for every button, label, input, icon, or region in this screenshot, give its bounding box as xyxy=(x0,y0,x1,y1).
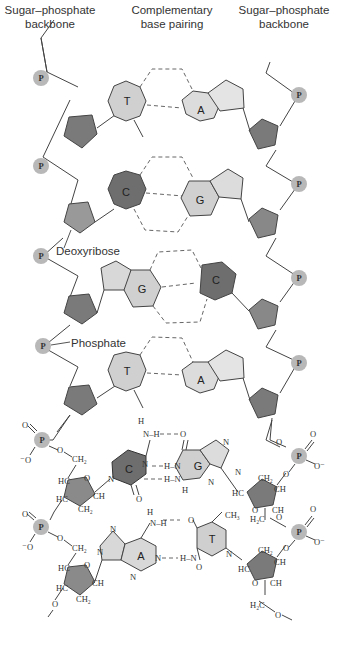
base-letter-A: A xyxy=(197,374,205,386)
chem-label: CH₂ xyxy=(78,504,93,514)
chem-label: H–N xyxy=(164,474,181,484)
base-letter-C: C xyxy=(122,186,130,198)
chem-label: CH₂ xyxy=(258,545,273,555)
chem-label: H–N xyxy=(180,553,197,563)
chem-label: CH xyxy=(93,491,105,501)
chem-label: HC xyxy=(56,494,68,504)
left-sugars xyxy=(64,115,97,415)
base-letter-G: G xyxy=(194,460,203,472)
phosphate-symbol: P xyxy=(38,522,43,532)
phosphate-symbol: P xyxy=(296,451,301,461)
chem-label: O xyxy=(310,504,316,514)
deoxyribose-icon xyxy=(249,388,278,418)
chem-label: O xyxy=(22,509,28,519)
chem-label: H xyxy=(138,416,144,426)
chem-label: O xyxy=(84,473,90,483)
chem-label: N xyxy=(223,437,229,447)
chem-label: CH xyxy=(270,578,282,588)
chem-label: HC xyxy=(238,564,250,574)
chem-label: H–N xyxy=(164,461,181,471)
base-letter-A: A xyxy=(137,550,145,562)
deoxyribose-icon xyxy=(64,202,95,233)
base-letter-C: C xyxy=(212,274,220,286)
chem-label: H₂C xyxy=(250,514,265,524)
chem-label: O xyxy=(180,429,186,439)
base-pair-2: C G xyxy=(95,157,249,232)
phosphate-symbol: P xyxy=(39,435,44,445)
chem-label: N xyxy=(97,547,103,557)
chem-label: O xyxy=(57,445,63,455)
base-letter-G: G xyxy=(138,283,147,295)
phosphate-symbol: P xyxy=(296,179,301,189)
chem-label: O xyxy=(22,420,28,430)
chem-label: O xyxy=(276,437,282,447)
base-letter-T: T xyxy=(124,95,131,107)
base-letter-A: A xyxy=(197,104,205,116)
base-letter-T: T xyxy=(209,533,216,545)
deoxyribose-icon xyxy=(64,115,97,148)
phosphate-symbol: P xyxy=(38,251,43,261)
phosphate-symbol: P xyxy=(40,341,45,351)
chem-label: O xyxy=(136,494,142,504)
chem-label: CH xyxy=(92,578,104,588)
chem-label: N xyxy=(235,467,241,477)
chem-label: O xyxy=(188,515,194,525)
chem-label: O xyxy=(52,599,58,609)
chem-label: CH₂ xyxy=(72,543,87,553)
chem-label: HC xyxy=(232,488,244,498)
chem-label: H₂C xyxy=(250,600,265,610)
right-sugars xyxy=(249,119,278,418)
chem-label: CH xyxy=(274,557,286,567)
base-letter-C: C xyxy=(125,463,133,475)
chem-label: O xyxy=(252,578,258,588)
deoxyribose-icon xyxy=(249,119,278,149)
phosphate-symbol: P xyxy=(296,273,301,283)
chem-label: ⁻O xyxy=(22,542,33,552)
chem-label: CH₃ xyxy=(225,510,240,520)
chem-label: HC xyxy=(56,583,68,593)
phosphate-symbol: P xyxy=(38,73,43,83)
chem-label: N–H xyxy=(150,518,167,528)
chem-label: O xyxy=(57,533,63,543)
deoxyribose-icon xyxy=(249,299,278,329)
chem-label: O xyxy=(196,562,202,572)
chem-label: O xyxy=(84,560,90,570)
right-backbone xyxy=(266,62,298,447)
chem-label: HC xyxy=(58,563,70,573)
chem-label: N xyxy=(130,572,136,582)
chemical-pair-at: P P O ⁻O O CH₂ HC O HC CH CH₂ O N N N H … xyxy=(22,504,325,620)
chem-label: O⁻ xyxy=(314,537,325,547)
chem-label: N xyxy=(142,459,148,469)
chem-label: N xyxy=(226,549,232,559)
chem-label: O⁻ xyxy=(314,461,325,471)
chem-label: CH xyxy=(274,484,286,494)
chem-label: HC xyxy=(58,476,70,486)
deoxyribose-icon xyxy=(64,294,97,324)
chem-label: CH₂ xyxy=(72,454,87,464)
chem-label: N xyxy=(155,553,161,563)
chem-label: H xyxy=(182,485,188,495)
chem-label: CH₂ xyxy=(76,594,91,604)
chem-label: O xyxy=(310,429,316,439)
deoxyribose-label: Deoxyribose xyxy=(56,244,120,258)
deoxyribose-icon xyxy=(249,208,278,238)
chem-label: N xyxy=(208,477,214,487)
phosphate-symbol: P xyxy=(38,161,43,171)
chem-label: O xyxy=(276,512,282,522)
phosphate-label: Phosphate xyxy=(71,336,126,350)
chem-label: O xyxy=(283,543,289,553)
chem-label: ⁻O xyxy=(20,455,31,465)
right-phosphates xyxy=(291,87,307,371)
chem-label: O xyxy=(275,610,281,620)
chemical-pair-cg: P P O ⁻O O CH₂ HC O HC CH CH₂ N H N–H N … xyxy=(20,415,325,520)
phosphate-symbol: P xyxy=(296,358,301,368)
phosphate-symbol: P xyxy=(296,527,301,537)
left-phosphates xyxy=(33,70,51,354)
deoxyribose-icon xyxy=(64,385,97,415)
chem-label: CH₂ xyxy=(258,473,273,483)
base-pair-3: G C xyxy=(97,250,249,323)
chem-label: N xyxy=(110,524,116,534)
chem-label: H xyxy=(147,507,153,517)
dna-diagram: T A C G G C T A xyxy=(0,0,338,651)
chem-label: O xyxy=(283,469,289,479)
